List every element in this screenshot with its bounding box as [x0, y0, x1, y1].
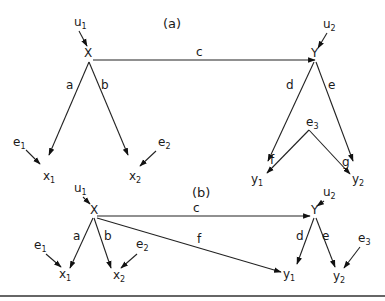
panel-a: (a) u1 X c a b e1 x1 e2 x2 u2 Y d [13, 15, 364, 188]
panel-b-title: (b) [192, 185, 210, 200]
edge-e2-x2-a [140, 151, 156, 166]
edge-e1-x1-b [46, 254, 61, 267]
edge-X-y1-f-b [97, 218, 281, 272]
edge-e2-x2-b [121, 254, 137, 268]
node-e1-b: e1 [34, 238, 46, 254]
node-u1-a: u1 [74, 15, 87, 31]
edge-label-d-a: d [286, 78, 294, 92]
node-u1-b: u1 [74, 181, 87, 197]
edge-label-a-b: a [73, 229, 80, 243]
node-x1-a: x1 [43, 169, 55, 185]
edge-Y-y2-a [316, 62, 353, 161]
node-e2-b: e2 [136, 237, 148, 253]
edge-Y-y1-a [268, 62, 314, 161]
edge-label-a-a: a [66, 78, 73, 92]
edge-label-b-a: b [101, 78, 109, 92]
node-e3-a: e3 [306, 115, 318, 131]
edge-X-x1-b [70, 218, 93, 268]
node-X-a: X [84, 46, 92, 60]
edge-label-c-b: c [193, 201, 200, 215]
edge-u1-X-a [79, 31, 87, 46]
node-y2-b: y2 [333, 269, 345, 285]
node-Y-a: Y [310, 46, 319, 60]
node-y2-a: y2 [352, 172, 364, 188]
edge-X-x2-b [94, 218, 111, 268]
node-x1-b: x1 [59, 267, 71, 283]
edge-label-d-b: d [296, 229, 304, 243]
edge-label-f-b: f [197, 232, 202, 246]
edge-label-g-a: g [342, 155, 350, 169]
edge-label-e-b: e [322, 229, 329, 243]
edge-e3-y2-b [344, 247, 360, 268]
edge-e1-x1-a [26, 150, 40, 164]
edge-u2-Y-a [318, 33, 327, 48]
panel-a-title: (a) [163, 16, 181, 31]
node-Y-b: Y [310, 203, 319, 217]
edge-label-c-a: c [196, 45, 203, 59]
node-e3-b: e3 [358, 231, 370, 247]
edge-X-x1-a [49, 62, 89, 155]
edge-label-e-a: e [328, 78, 335, 92]
node-x2-a: x2 [129, 169, 141, 185]
node-X-b: X [90, 203, 98, 217]
node-u2-b: u2 [323, 185, 336, 201]
node-e2-a: e2 [158, 135, 170, 151]
panel-b: (b) u1 X c f a b e1 x1 e2 x2 u2 Y d [34, 181, 370, 285]
node-y1-b: y1 [283, 267, 295, 283]
node-x2-b: x2 [113, 268, 125, 284]
path-diagram: (a) u1 X c a b e1 x1 e2 x2 u2 Y d [0, 0, 385, 301]
node-y1-a: y1 [251, 172, 263, 188]
edge-label-b-b: b [104, 229, 112, 243]
node-u2-a: u2 [323, 17, 336, 33]
edge-X-x2-a [89, 62, 128, 155]
edge-u1-X-b [83, 197, 90, 204]
node-e1-a: e1 [13, 135, 25, 151]
